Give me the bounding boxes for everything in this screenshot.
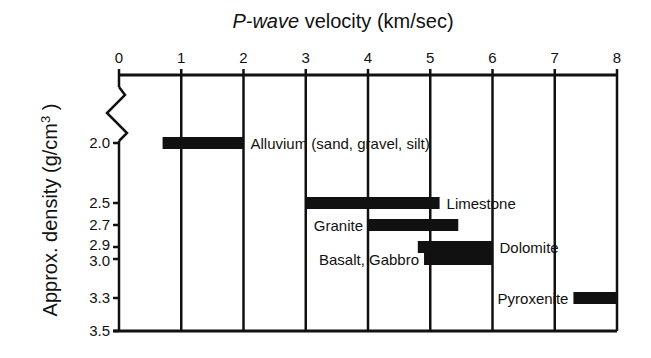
x-tick-label: 0 <box>115 49 123 66</box>
x-tick-label: 3 <box>302 49 310 66</box>
bar-dolomite <box>418 241 493 253</box>
bar-label: Basalt, Gabbro <box>319 251 419 268</box>
bar-label: Granite <box>314 217 363 234</box>
bar-label: Limestone <box>447 195 516 212</box>
x-tick-label: 7 <box>551 49 559 66</box>
chart-canvas: P-wave velocity (km/sec)0123456782.02.52… <box>0 0 651 358</box>
y-tick-label: 3.5 <box>89 322 110 339</box>
bar-label: Alluvium (sand, gravel, silt) <box>251 135 430 152</box>
bar-pyroxenite <box>573 292 617 304</box>
y-tick-label: 2.5 <box>89 194 110 211</box>
x-tick-label: 5 <box>426 49 434 66</box>
x-tick-label: 2 <box>239 49 247 66</box>
bar-label: Pyroxenite <box>498 290 569 307</box>
bar-alluvium-sand-gravel-silt- <box>163 137 244 149</box>
chart-title: P-wave velocity (km/sec) <box>232 10 453 32</box>
y-axis-label: Approx. density (g/cm3 ) <box>38 104 62 317</box>
y-tick-label: 3.0 <box>89 252 110 269</box>
axis-break-icon <box>107 87 127 141</box>
y-tick-label: 3.3 <box>89 289 110 306</box>
x-tick-label: 4 <box>364 49 372 66</box>
y-tick-label: 2.0 <box>89 134 110 151</box>
x-tick-label: 8 <box>613 49 621 66</box>
y-tick-label: 2.9 <box>89 236 110 253</box>
bar-granite <box>368 219 458 231</box>
bar-limestone <box>306 197 440 209</box>
y-tick-label: 2.7 <box>89 216 110 233</box>
bar-basalt-gabbro <box>424 253 492 265</box>
bar-label: Dolomite <box>500 239 559 256</box>
x-tick-label: 6 <box>488 49 496 66</box>
x-tick-label: 1 <box>177 49 185 66</box>
